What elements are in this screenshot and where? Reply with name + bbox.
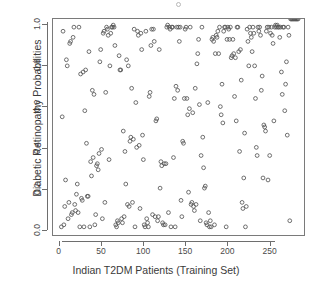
x-tick-label: 100 <box>128 246 158 256</box>
x-tick-label: 50 <box>86 246 116 256</box>
x-tick-label: 200 <box>212 246 242 256</box>
x-tick-label: 150 <box>170 246 200 256</box>
x-tick-label: 0 <box>44 246 74 256</box>
x-axis-title: Indian T2DM Patients (Training Set) <box>0 264 312 276</box>
y-axis-title: Diabetic Retinopathy Probabilities <box>31 18 43 218</box>
y-axis-line <box>47 22 48 230</box>
plot-area <box>52 18 305 236</box>
x-tick-label: 250 <box>255 246 285 256</box>
scatter-plot-figure: 0.00.20.40.60.81.0 050100150200250 Diabe… <box>0 0 312 289</box>
data-points-layer <box>53 19 304 235</box>
y-tick-label: 0.0 <box>32 219 42 241</box>
y-tick-mark <box>42 230 47 231</box>
stray-point-marker <box>176 2 181 7</box>
x-axis-line <box>62 241 275 242</box>
scatter-points-svg <box>53 19 304 235</box>
